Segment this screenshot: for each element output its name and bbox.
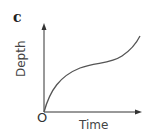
origin-label: O bbox=[37, 110, 47, 125]
x-axis-arrow-icon bbox=[135, 110, 142, 115]
y-axis-label: Depth bbox=[14, 40, 28, 77]
y-axis-arrow-icon bbox=[42, 23, 47, 30]
x-axis-label: Time bbox=[79, 118, 108, 132]
depth-curve bbox=[44, 36, 140, 112]
